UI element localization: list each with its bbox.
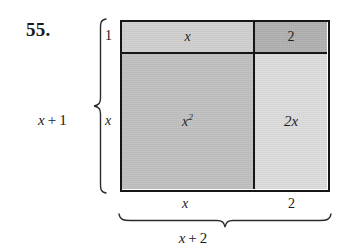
bottom-segment-label-left: x: [182, 197, 188, 211]
left-segment-label-top: 1: [105, 29, 112, 43]
area-cell-bottom-left: x2: [122, 54, 255, 189]
area-cell-top-right-label: 2: [288, 30, 295, 44]
bottom-dimension-label: x+2: [179, 231, 208, 246]
bottom-dimension-variable: x: [179, 230, 186, 246]
area-cell-top-left-label: x: [184, 30, 190, 44]
area-cell-bottom-right-label: 2x: [284, 114, 298, 129]
area-cell-bottom-left-label: x2: [182, 115, 193, 129]
left-dimension-number: 1: [59, 112, 67, 128]
bottom-brace-icon: [118, 213, 332, 229]
area-cell-top-left: x: [122, 22, 255, 54]
left-dimension-label: x+1: [38, 113, 67, 128]
left-dimension-variable: x: [38, 112, 45, 128]
area-cell-bottom-left-exponent: 2: [188, 112, 193, 122]
left-brace-icon: [92, 18, 108, 194]
area-cell-bottom-right: 2x: [255, 54, 327, 189]
left-dimension-operator: +: [48, 112, 56, 128]
bottom-dimension-number: 2: [200, 230, 208, 246]
area-model-figure: 55. x+1 1 x x 2 x2 2x x 2: [0, 0, 345, 252]
bottom-segment-label-right: 2: [288, 197, 295, 211]
bottom-dimension-operator: +: [188, 230, 196, 246]
exercise-number: 55.: [26, 20, 51, 39]
area-cell-top-right: 2: [255, 22, 327, 54]
left-segment-label-bottom: x: [105, 114, 111, 128]
area-model-rectangle: x 2 x2 2x: [120, 20, 330, 192]
